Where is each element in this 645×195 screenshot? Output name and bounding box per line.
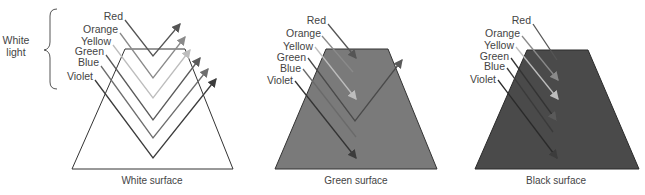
- svg-text:Violet: Violet: [67, 70, 93, 82]
- svg-text:Orange: Orange: [485, 27, 520, 39]
- svg-text:Blue: Blue: [280, 62, 301, 74]
- brace-icon: [44, 9, 57, 89]
- svg-text:Violet: Violet: [470, 73, 496, 85]
- green-surface-caption: Green surface: [324, 175, 388, 186]
- svg-text:Orange: Orange: [286, 27, 321, 39]
- panel-white-surface: Red Orange Yellow Green Blue Violet Whit…: [67, 10, 233, 186]
- color-reflection-diagram: White light Red Orange Yellow Green Blue…: [0, 0, 645, 195]
- white-surface-caption: White surface: [121, 175, 183, 186]
- black-surface-caption: Black surface: [526, 175, 586, 186]
- svg-text:Violet: Violet: [267, 74, 293, 86]
- svg-text:light: light: [6, 46, 25, 58]
- panel-black-surface: Red Orange Yellow Green Blue Violet Blac…: [470, 14, 639, 186]
- svg-text:Red: Red: [307, 14, 326, 26]
- svg-text:Blue: Blue: [484, 60, 505, 72]
- svg-text:Red: Red: [104, 10, 123, 22]
- svg-text:Blue: Blue: [78, 56, 99, 68]
- svg-text:Red: Red: [512, 14, 531, 26]
- white-light-label: White light: [3, 9, 57, 89]
- panel-green-surface: Red Orange Yellow Green Blue Violet Gree…: [267, 14, 437, 186]
- svg-text:White: White: [3, 34, 30, 46]
- svg-text:Orange: Orange: [83, 23, 118, 35]
